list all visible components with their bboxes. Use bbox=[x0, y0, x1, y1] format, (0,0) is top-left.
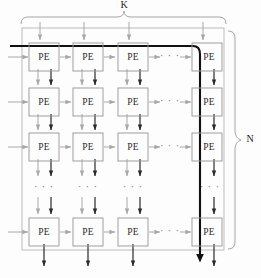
pe-label: PE bbox=[127, 227, 139, 237]
pe-label: PE bbox=[203, 97, 215, 107]
pe-label: PE bbox=[82, 227, 94, 237]
pe-cell-r1c2[interactable]: PE bbox=[73, 43, 103, 71]
pe-label: PE bbox=[38, 142, 50, 152]
horizontal-ellipsis-row4: · · · bbox=[160, 225, 180, 236]
diagram-canvas: K N bbox=[0, 0, 261, 278]
vertical-ellipsis-col4: · · · bbox=[200, 181, 220, 192]
pe-cell-r3c2[interactable]: PE bbox=[73, 133, 103, 161]
right-brace-label: N bbox=[246, 133, 253, 144]
pe-label: PE bbox=[203, 52, 215, 62]
pe-label: PE bbox=[82, 97, 94, 107]
vertical-ellipsis-col1: · · · bbox=[34, 181, 54, 192]
pe-cell-r1c4[interactable]: PE bbox=[192, 43, 222, 71]
vertical-ellipsis-col2: · · · bbox=[78, 181, 98, 192]
horizontal-ellipsis-row2: · · · bbox=[160, 95, 180, 106]
pe-cell-r2c3[interactable]: PE bbox=[118, 88, 148, 116]
pe-cell-r2c4[interactable]: PE bbox=[192, 88, 222, 116]
pe-cell-r2c1[interactable]: PE bbox=[29, 88, 59, 116]
pe-label: PE bbox=[82, 52, 94, 62]
pe-cell-r3c4[interactable]: PE bbox=[192, 133, 222, 161]
pe-label: PE bbox=[203, 142, 215, 152]
pe-label: PE bbox=[127, 52, 139, 62]
pe-cell-r4c2[interactable]: PE bbox=[73, 218, 103, 246]
pe-cell-r1c3[interactable]: PE bbox=[118, 43, 148, 71]
systolic-array-diagram: K N bbox=[0, 0, 261, 278]
pe-cell-r1c1[interactable]: PE bbox=[29, 43, 59, 71]
top-brace-label: K bbox=[120, 0, 128, 10]
pe-cell-r3c3[interactable]: PE bbox=[118, 133, 148, 161]
pe-cell-r4c3[interactable]: PE bbox=[118, 218, 148, 246]
horizontal-ellipsis-row1: · · · bbox=[160, 50, 180, 61]
pe-cell-r2c2[interactable]: PE bbox=[73, 88, 103, 116]
pe-label: PE bbox=[38, 227, 50, 237]
pe-label: PE bbox=[38, 97, 50, 107]
pe-cell-r3c1[interactable]: PE bbox=[29, 133, 59, 161]
pe-cell-r4c1[interactable]: PE bbox=[29, 218, 59, 246]
pe-label: PE bbox=[127, 97, 139, 107]
horizontal-ellipsis-row3: · · · bbox=[160, 140, 180, 151]
pe-cell-r4c4[interactable]: PE bbox=[192, 218, 222, 246]
pe-label: PE bbox=[203, 227, 215, 237]
pe-label: PE bbox=[38, 52, 50, 62]
pe-label: PE bbox=[127, 142, 139, 152]
vertical-ellipsis-col3: · · · bbox=[123, 181, 143, 192]
pe-label: PE bbox=[82, 142, 94, 152]
